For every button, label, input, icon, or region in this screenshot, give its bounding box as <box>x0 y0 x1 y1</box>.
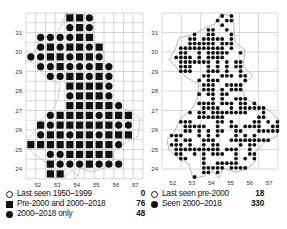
y-tick-label: 24 <box>151 166 158 172</box>
dot-marker <box>220 97 224 101</box>
dot-marker <box>193 42 197 46</box>
dot-marker <box>248 106 252 110</box>
dot-marker <box>76 161 83 168</box>
dot-marker <box>266 120 270 124</box>
dot-marker <box>220 56 224 60</box>
dot-marker <box>184 65 188 69</box>
dot-marker <box>220 42 224 46</box>
dot-marker <box>211 102 215 106</box>
dot-marker <box>239 88 243 92</box>
square-marker <box>66 102 73 109</box>
square-marker <box>96 83 103 90</box>
dot-marker <box>57 73 64 80</box>
right-dot-map: 3130292827262524525354555657 <box>143 0 287 190</box>
dot-marker <box>220 88 224 92</box>
dot-marker <box>184 129 188 133</box>
dot-marker <box>225 74 229 78</box>
dot-marker <box>202 125 206 129</box>
dot-marker <box>207 92 211 96</box>
square-marker <box>76 83 83 90</box>
dot-marker <box>37 44 44 51</box>
dot-marker <box>115 141 122 148</box>
dot-marker <box>220 46 224 50</box>
dot-marker <box>211 115 215 119</box>
dot-marker <box>276 129 280 133</box>
square-marker <box>47 161 54 168</box>
dot-marker <box>234 134 238 138</box>
dot-marker <box>271 129 275 133</box>
x-tick-label: 52 <box>34 182 41 188</box>
square-marker <box>86 112 93 119</box>
legend-row-seen-2000-2018: Seen 2000–2018 330 <box>151 199 264 209</box>
dot-marker <box>197 51 201 55</box>
square-marker <box>66 83 73 90</box>
dot-marker <box>207 148 211 152</box>
dot-marker <box>216 65 220 69</box>
square-marker <box>76 102 83 109</box>
square-marker <box>47 131 54 138</box>
dot-marker <box>230 88 234 92</box>
dot-marker <box>220 23 224 27</box>
dot-marker <box>239 97 243 101</box>
dot-marker <box>239 102 243 106</box>
dot-marker <box>257 115 261 119</box>
dot-marker <box>243 97 247 101</box>
dot-marker <box>262 138 266 142</box>
dot-marker <box>220 37 224 41</box>
square-marker <box>57 131 64 138</box>
dot-marker <box>188 111 192 115</box>
dot-marker <box>202 88 206 92</box>
filled-circle-icon <box>151 201 158 208</box>
dot-marker <box>86 44 93 51</box>
square-marker <box>47 44 54 51</box>
dot-marker <box>248 143 252 147</box>
square-marker <box>66 73 73 80</box>
dot-marker <box>230 120 234 124</box>
y-tick-label: 30 <box>15 49 22 55</box>
dot-marker <box>105 63 112 70</box>
dot-marker <box>179 143 183 147</box>
dot-marker <box>239 138 243 142</box>
dot-marker <box>211 148 215 152</box>
square-marker <box>66 151 73 158</box>
dot-marker <box>234 125 238 129</box>
grid-symbols <box>27 14 132 177</box>
legend-count: 330 <box>242 199 264 209</box>
dot-marker <box>225 51 229 55</box>
legend-row-2000-2018-only: 2000–2018 only 48 <box>6 209 145 219</box>
dot-marker <box>220 129 224 133</box>
dot-marker <box>105 161 112 168</box>
square-marker <box>105 102 112 109</box>
dot-marker <box>207 28 211 32</box>
dot-marker <box>253 120 257 124</box>
dot-marker <box>220 14 224 18</box>
dot-marker <box>188 120 192 124</box>
square-marker <box>57 141 64 148</box>
square-marker <box>96 63 103 70</box>
dot-marker <box>276 120 280 124</box>
dot-marker <box>76 63 83 70</box>
dot-marker <box>216 166 220 170</box>
y-tick-label: 25 <box>151 147 158 153</box>
dot-marker <box>202 143 206 147</box>
square-marker <box>76 24 83 31</box>
dot-marker <box>179 120 183 124</box>
dot-marker <box>216 69 220 73</box>
dot-marker <box>207 37 211 41</box>
dot-marker <box>174 134 178 138</box>
dot-marker <box>188 148 192 152</box>
square-marker <box>37 141 44 148</box>
dot-marker <box>197 79 201 83</box>
dot-marker <box>86 73 93 80</box>
dot-marker <box>47 112 54 119</box>
y-tick-label: 31 <box>15 30 22 36</box>
dot-marker <box>197 148 201 152</box>
dot-marker <box>202 102 206 106</box>
dot-marker <box>207 65 211 69</box>
square-marker <box>76 131 83 138</box>
dot-marker <box>230 33 234 37</box>
dot-marker <box>188 138 192 142</box>
x-tick-label: 55 <box>227 180 234 186</box>
dot-marker <box>179 46 183 50</box>
y-tick-label: 25 <box>15 147 22 153</box>
